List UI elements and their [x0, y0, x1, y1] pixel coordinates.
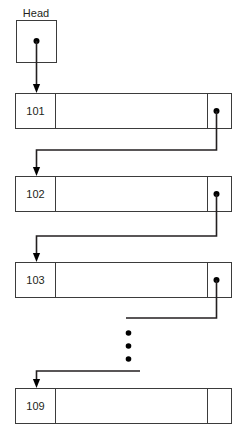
node-109-pointer-cell: [208, 389, 232, 424]
ellipsis-group: [126, 330, 132, 362]
node-102: 102: [16, 177, 232, 212]
node-101-label: 101: [26, 105, 44, 117]
ellipsis-dot-3: [126, 356, 132, 362]
node-101: 101: [16, 94, 232, 129]
head-group: Head: [17, 7, 57, 93]
connector-ellipsis-to-109-path: [37, 371, 141, 381]
node-109-label: 109: [26, 400, 44, 412]
linked-list-diagram: Head 101 102: [0, 0, 245, 440]
ellipsis-dot-2: [126, 343, 132, 349]
node-103-label: 103: [26, 274, 44, 286]
node-102-data-cell: [56, 177, 208, 212]
node-109: 109: [16, 389, 232, 424]
arrowhead-102-to-103: [33, 253, 40, 262]
node-103: 103: [16, 263, 232, 298]
node-109-data-cell: [56, 389, 208, 424]
ellipsis-dot-1: [126, 330, 132, 336]
arrowhead-101-to-102: [33, 167, 40, 176]
node-103-data-cell: [56, 263, 208, 298]
node-101-data-cell: [56, 94, 208, 129]
arrowhead-ellipsis-to-109: [33, 379, 40, 388]
connector-ellipsis-to-109: [33, 371, 140, 388]
node-102-label: 102: [26, 188, 44, 200]
arrowhead-head-to-101: [33, 84, 40, 93]
diagram-canvas: Head 101 102: [0, 0, 245, 440]
head-label: Head: [23, 7, 49, 19]
